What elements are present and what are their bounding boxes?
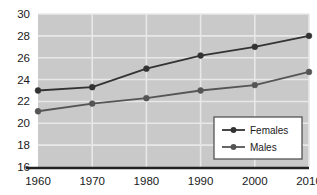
data-point-marker — [35, 108, 41, 114]
y-tick-label: 26 — [17, 52, 30, 64]
data-point-marker — [252, 82, 258, 88]
data-point-marker — [35, 88, 41, 94]
data-point-marker — [89, 101, 95, 107]
y-tick-label: 28 — [17, 30, 30, 42]
data-point-marker — [198, 53, 204, 59]
legend-label: Females — [250, 125, 288, 136]
x-axis: 196019701980199020002010 — [25, 175, 317, 187]
legend: FemalesMales — [214, 117, 302, 159]
legend-label: Males — [250, 142, 277, 153]
y-tick-label: 18 — [17, 139, 30, 151]
y-axis: 3028262422201816 — [17, 8, 30, 173]
x-tick-label: 2000 — [242, 175, 268, 187]
x-tick-label: 1990 — [188, 175, 214, 187]
data-point-marker — [144, 66, 150, 72]
x-tick-label: 1980 — [134, 175, 160, 187]
x-tick-label: 1960 — [25, 175, 51, 187]
y-tick-label: 30 — [17, 8, 30, 20]
chart-container: 3028262422201816196019701980199020002010… — [0, 0, 317, 195]
line-chart: 3028262422201816196019701980199020002010… — [0, 0, 317, 195]
data-point-marker — [306, 69, 312, 75]
y-tick-label: 24 — [17, 74, 30, 86]
data-point-marker — [144, 95, 150, 101]
data-point-marker — [89, 84, 95, 90]
data-point-marker — [198, 88, 204, 94]
y-tick-label: 20 — [17, 117, 30, 129]
filled-circle-icon — [231, 127, 237, 133]
x-tick-label: 1970 — [79, 175, 105, 187]
y-tick-label: 22 — [17, 95, 30, 107]
legend-box — [214, 117, 302, 159]
x-tick-label: 2010 — [296, 175, 317, 187]
data-point-marker — [252, 44, 258, 50]
filled-circle-icon — [231, 144, 237, 150]
data-point-marker — [306, 33, 312, 39]
